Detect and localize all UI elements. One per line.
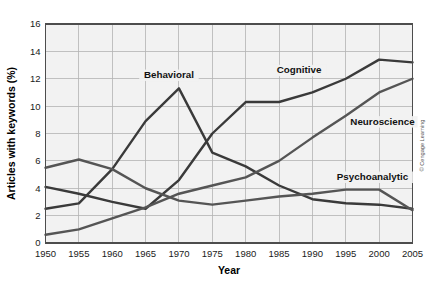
x-axis-tick-label: 1960	[102, 248, 123, 259]
series-label-neuroscience: Neuroscience	[350, 116, 415, 127]
x-axis-tick-label: 1970	[168, 248, 189, 259]
x-axis-tick-label: 1955	[68, 248, 89, 259]
x-axis-title: Year	[218, 264, 240, 276]
x-axis-tick-label: 1975	[202, 248, 223, 259]
y-axis-tick-label: 10	[30, 101, 41, 112]
copyright-credit: © Cengage Learning	[419, 120, 425, 172]
y-axis-tick-label: 6	[35, 155, 40, 166]
x-axis-tick-label: 1985	[268, 248, 289, 259]
plot-area: 0246810121416195019551960196519701975198…	[5, 18, 425, 276]
series-label-behavioral: Behavioral	[144, 69, 194, 80]
x-axis-tick-label: 2000	[369, 248, 390, 259]
x-axis-tick-label: 1990	[302, 248, 323, 259]
y-axis-tick-label: 14	[30, 46, 41, 57]
x-axis-tick-label: 1950	[35, 248, 56, 259]
x-axis-tick-label: 1965	[135, 248, 156, 259]
x-axis-tick-label: 2005	[402, 248, 423, 259]
chart-figure: 0246810121416195019551960196519701975198…	[0, 0, 440, 292]
y-axis-tick-label: 2	[35, 210, 40, 221]
y-axis-tick-label: 8	[35, 128, 40, 139]
series-label-cognitive: Cognitive	[277, 64, 322, 75]
series-label-psychoanalytic: Psychoanalytic	[337, 171, 409, 182]
y-axis-tick-label: 4	[35, 183, 40, 194]
y-axis-tick-label: 16	[30, 18, 41, 29]
y-axis-tick-label: 12	[30, 73, 41, 84]
y-axis-title: Articles with keywords (%)	[5, 67, 17, 200]
x-axis-tick-label: 1995	[335, 248, 356, 259]
line-chart: 0246810121416195019551960196519701975198…	[0, 0, 440, 292]
x-axis-tick-label: 1980	[235, 248, 256, 259]
